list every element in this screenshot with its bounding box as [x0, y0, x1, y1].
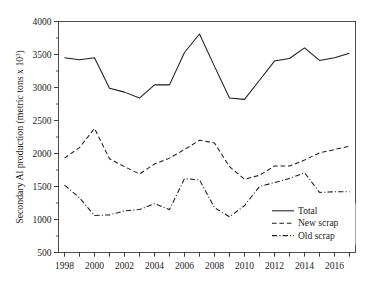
y-tick-label: 2000 [33, 149, 52, 159]
y-tick-label: 500 [37, 248, 52, 258]
x-tick-label: 2008 [205, 261, 224, 271]
x-tick-label: 2002 [115, 261, 134, 271]
x-tick-label: 2004 [145, 261, 164, 271]
x-tick-label: 2014 [295, 261, 314, 271]
x-tick-label: 2012 [265, 261, 284, 271]
x-tick-label: 2010 [235, 261, 254, 271]
legend-label-total: Total [298, 206, 318, 216]
y-axis-title: Secondary Al production (metric tons x 1… [14, 50, 26, 224]
x-tick-label: 2000 [85, 261, 104, 271]
y-tick-label: 4000 [33, 17, 52, 27]
y-axis-title-text: Secondary Al production (metric tons x 1… [14, 50, 26, 224]
legend-label-old-scrap: Old scrap [298, 231, 335, 241]
y-tick-label: 3500 [33, 50, 52, 60]
chart-container: 5001000150020002500300035004000199820002… [0, 0, 382, 289]
chart-background [0, 0, 382, 289]
x-tick-label: 2006 [175, 261, 194, 271]
y-tick-label: 3000 [33, 83, 52, 93]
legend: TotalNew scrapOld scrap [267, 204, 356, 245]
y-tick-label: 2500 [33, 116, 52, 126]
y-tick-label: 1500 [33, 182, 52, 192]
legend-label-new-scrap: New scrap [298, 218, 339, 228]
x-tick-label: 1998 [55, 261, 74, 271]
y-tick-label: 1000 [33, 215, 52, 225]
x-tick-label: 2016 [325, 261, 344, 271]
line-chart: 5001000150020002500300035004000199820002… [0, 0, 382, 289]
